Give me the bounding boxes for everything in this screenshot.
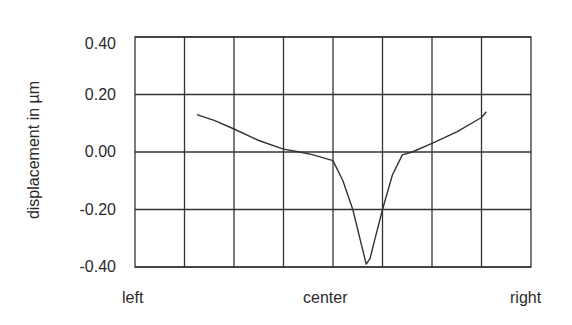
x-tick-label-right: right: [510, 289, 541, 307]
y-tick-label: -0.40: [56, 258, 116, 276]
y-tick-label: 0.20: [56, 86, 116, 104]
y-tick-label: 0.00: [56, 143, 116, 161]
x-tick-label-center: center: [303, 289, 347, 307]
y-tick-label: -0.20: [56, 201, 116, 219]
x-tick-label-left: left: [122, 289, 143, 307]
y-axis-label: displacement in µm: [25, 81, 43, 219]
plot-grid: [135, 37, 531, 267]
displacement-curve: [197, 112, 487, 264]
y-tick-label: 0.40: [56, 35, 116, 53]
